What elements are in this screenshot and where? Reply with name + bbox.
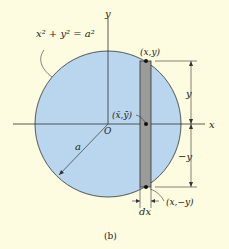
dim-upper-label: y — [185, 88, 192, 99]
bottom-point-label: (x,−y) — [166, 197, 194, 207]
top-point — [144, 59, 148, 63]
dim-arrow — [189, 182, 193, 187]
dx-arrowhead — [136, 199, 140, 203]
equation-label: x² + y² = a² — [36, 28, 95, 39]
figure-caption: (b) — [104, 231, 117, 241]
dx-label: dx — [139, 206, 151, 217]
y-axis-label: y — [104, 8, 111, 19]
dim-arrow — [189, 61, 193, 66]
dim-arrow — [189, 124, 193, 129]
centroid-point — [144, 122, 148, 126]
x-axis-label: x — [209, 119, 215, 130]
bottom-point — [144, 185, 148, 189]
top-point-label: (x,y) — [140, 47, 161, 57]
origin-label: O — [104, 126, 112, 136]
bottom-leader — [150, 189, 164, 201]
dim-arrow — [189, 119, 193, 124]
dx-arrowhead — [151, 199, 155, 203]
circle-integration-diagram: x² + y² = a² y x O a (x,y) (x̄,ȳ) (x,−y)… — [0, 0, 229, 249]
dim-lower-label: −y — [178, 151, 192, 162]
radius-label: a — [75, 141, 81, 152]
equation-leader — [41, 50, 52, 77]
centroid-label: (x̄,ȳ) — [112, 110, 133, 120]
